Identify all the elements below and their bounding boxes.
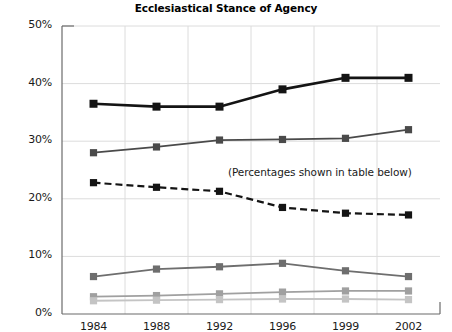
series-marker (90, 273, 97, 280)
x-axis-tick-label: 1992 (190, 320, 250, 332)
series-marker (342, 287, 349, 294)
series-marker (405, 287, 412, 294)
series-marker (153, 184, 160, 191)
y-axis-tick-label: 40% (8, 76, 52, 89)
series-marker (405, 74, 413, 82)
x-axis-tick-label: 1999 (316, 320, 376, 332)
series-marker (90, 179, 97, 186)
series-marker (279, 295, 286, 302)
series-marker (342, 267, 349, 274)
series-marker (279, 204, 286, 211)
x-axis-tick-label: 1988 (127, 320, 187, 332)
x-axis-tick-label: 1984 (64, 320, 124, 332)
y-axis-tick-label: 10% (8, 248, 52, 261)
series-marker (279, 85, 287, 93)
series-marker (153, 265, 160, 272)
line-chart: Ecclesiastical Stance of Agency 0%10%20%… (0, 0, 452, 332)
y-axis-tick-label: 0% (8, 306, 52, 319)
series-marker (342, 295, 349, 302)
series-marker (342, 210, 349, 217)
series-marker (90, 149, 97, 156)
series-marker (342, 135, 349, 142)
series-marker (153, 297, 160, 304)
series-marker (405, 296, 412, 303)
series-marker (405, 273, 412, 280)
series-marker (279, 260, 286, 267)
series-marker (153, 103, 161, 111)
y-axis-tick-label: 50% (8, 18, 52, 31)
series-marker (342, 74, 350, 82)
x-axis-tick-label: 1996 (253, 320, 313, 332)
y-axis-tick-label: 20% (8, 191, 52, 204)
series-marker (279, 136, 286, 143)
series-marker (216, 263, 223, 270)
series-marker (405, 126, 412, 133)
chart-annotation-note: (Percentages shown in table below) (228, 166, 412, 178)
series-marker (216, 136, 223, 143)
x-axis-tick-label: 2002 (379, 320, 439, 332)
series-marker (216, 103, 224, 111)
series-marker (216, 188, 223, 195)
series-marker (90, 100, 98, 108)
series-marker (153, 143, 160, 150)
y-axis-tick-label: 30% (8, 133, 52, 146)
series-marker (90, 297, 97, 304)
series-marker (405, 211, 412, 218)
series-marker (279, 289, 286, 296)
series-marker (216, 296, 223, 303)
